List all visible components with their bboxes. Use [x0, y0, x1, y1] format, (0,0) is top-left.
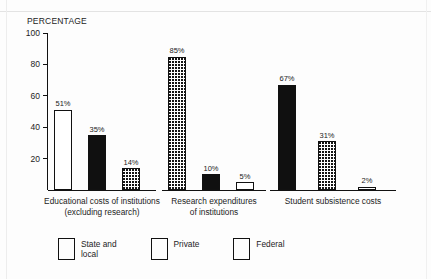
bar-value-label: 51%	[43, 100, 83, 108]
legend-label-line2: local	[81, 249, 117, 259]
legend-item-federal: Federal	[233, 238, 284, 260]
bar-private	[278, 85, 296, 190]
legend-swatch-federal	[233, 238, 250, 260]
bar-group-educational-costs: 51%35%14%Educational costs of institutio…	[48, 32, 156, 190]
bar-value-label: 5%	[225, 173, 265, 181]
bar-value-label: 10%	[191, 165, 231, 173]
bar-value-label: 2%	[347, 177, 387, 185]
bar-federal	[318, 141, 336, 190]
bar-federal	[122, 168, 140, 190]
legend-label-line1: State and	[81, 239, 117, 249]
legend-swatch-private	[151, 238, 168, 260]
y-axis-tick-label-100: 100	[18, 29, 40, 38]
group-label-line1: Educational costs of institutions	[44, 196, 160, 207]
y-axis-title: PERCENTAGE	[27, 16, 87, 26]
bar-value-label: 67%	[267, 75, 307, 83]
page-edge-right	[426, 0, 427, 279]
legend-label-federal: Federal	[256, 238, 284, 249]
legend-item-private: Private	[151, 238, 200, 260]
bar-slot: 67%	[278, 33, 296, 190]
legend-label-state-and-local: State and local	[81, 238, 117, 259]
bar-slot: 31%	[318, 33, 336, 190]
bar-slot: 14%	[122, 33, 140, 190]
group-label-line2: of institutions	[171, 207, 256, 218]
page-edge-left	[6, 0, 7, 279]
bar-slot: 10%	[202, 33, 220, 190]
bar-private	[88, 135, 106, 190]
page-edge-top	[0, 11, 431, 12]
bar-group-research-expenditures: 85%10%5%Research expendituresof institut…	[162, 32, 266, 190]
legend-label-private: Private	[174, 238, 200, 249]
legend-label-line1: Private	[174, 239, 200, 249]
y-axis-tick-label-40: 40	[18, 123, 40, 132]
bar-slot: 35%	[88, 33, 106, 190]
bar-slot: 5%	[236, 33, 254, 190]
group-label-research-expenditures: Research expendituresof institutions	[171, 196, 256, 218]
group-label-student-subsistence: Student subsistence costs	[285, 196, 381, 207]
bar-slot: 51%	[54, 33, 72, 190]
bar-value-label: 14%	[111, 159, 151, 167]
bar-chart-figure: PERCENTAGE 10080604020 51%35%14%Educatio…	[0, 0, 431, 279]
group-label-line2: (excluding research)	[44, 207, 160, 218]
group-label-line1: Student subsistence costs	[285, 196, 381, 207]
bar-slots: 85%10%5%	[168, 33, 254, 190]
legend-swatch-state-and-local	[58, 238, 75, 260]
legend-item-state-and-local: State and local	[58, 238, 117, 260]
bar-group-student-subsistence: 67%31%2%Student subsistence costs	[270, 32, 396, 190]
bar-private	[202, 174, 220, 190]
bar-slots: 67%31%2%	[278, 33, 376, 190]
group-label-educational-costs: Educational costs of institutions(exclud…	[44, 196, 160, 218]
bar-state-and-local	[54, 110, 72, 190]
y-axis-tick-label-60: 60	[18, 92, 40, 101]
y-axis-tick-label-20: 20	[18, 155, 40, 164]
bar-federal	[168, 57, 186, 190]
chart-legend: State and local Private Federal	[58, 238, 319, 260]
bar-value-label: 35%	[77, 126, 117, 134]
bar-state-and-local	[358, 187, 376, 190]
bar-slot: 2%	[358, 33, 376, 190]
legend-label-line1: Federal	[256, 239, 284, 249]
bar-value-label: 31%	[307, 132, 347, 140]
bar-slots: 51%35%14%	[54, 33, 140, 190]
bar-state-and-local	[236, 182, 254, 190]
group-label-line1: Research expenditures	[171, 196, 256, 207]
y-axis-tick-label-80: 80	[18, 60, 40, 69]
bar-slot: 85%	[168, 33, 186, 190]
bar-value-label: 85%	[157, 47, 197, 55]
